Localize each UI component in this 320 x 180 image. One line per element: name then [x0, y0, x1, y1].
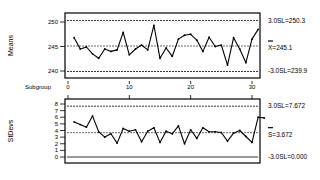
data-point	[147, 130, 149, 132]
data-point	[208, 36, 210, 38]
data-point	[245, 62, 247, 64]
data-point	[214, 131, 216, 133]
data-point	[196, 138, 198, 140]
y-tick-label: 6	[55, 114, 59, 120]
data-point	[122, 31, 124, 33]
data-point	[104, 136, 106, 138]
data-point	[79, 124, 81, 126]
x-axis-label: Subgroup	[25, 84, 52, 90]
ucl-label: 3.0SL=250.3	[268, 17, 305, 24]
data-point	[104, 48, 106, 50]
data-point	[239, 48, 241, 50]
data-point	[196, 39, 198, 41]
data-point	[86, 46, 88, 48]
data-point	[147, 49, 149, 51]
data-point	[220, 44, 222, 46]
data-point	[135, 48, 137, 50]
data-point	[184, 143, 186, 145]
means-panel: Means2402452503.0SL=250.3X=245.1-3.0SL=2…	[7, 13, 308, 78]
data-point	[202, 51, 204, 53]
means-series-line	[74, 25, 258, 65]
stdevs-series-line	[74, 116, 264, 144]
data-point	[110, 51, 112, 53]
data-point	[73, 37, 75, 39]
stdevs-plot-frame	[65, 99, 260, 163]
data-point	[110, 133, 112, 135]
y-tick-label: 245	[48, 44, 59, 50]
x-tick-label: 10	[126, 84, 133, 90]
data-point	[184, 34, 186, 36]
data-point	[178, 125, 180, 127]
y-tick-label: 7	[55, 108, 59, 114]
data-point	[141, 141, 143, 143]
means-y-axis-label: Means	[7, 34, 14, 56]
data-point	[153, 127, 155, 129]
data-point	[141, 44, 143, 46]
lcl-label: -3.0SL=0.000	[268, 153, 308, 160]
data-point	[178, 38, 180, 40]
data-point	[135, 129, 137, 131]
y-tick-label: 5	[55, 121, 59, 127]
x-tick-label: 20	[187, 84, 194, 90]
data-point	[116, 142, 118, 144]
data-point	[92, 115, 94, 117]
data-point	[165, 130, 167, 132]
data-point	[257, 116, 259, 118]
data-point	[208, 131, 210, 133]
data-point	[233, 132, 235, 134]
data-point	[202, 127, 204, 129]
data-point	[171, 55, 173, 57]
x-tick-label: 30	[249, 84, 256, 90]
data-point	[128, 54, 130, 56]
data-point	[227, 64, 229, 66]
data-point	[128, 130, 130, 132]
data-point	[257, 28, 259, 30]
lcl-label: -3.0SL=239.9	[268, 67, 308, 74]
y-tick-label: 240	[48, 68, 59, 74]
y-tick-label: 250	[48, 19, 59, 25]
data-point	[251, 142, 253, 144]
data-point	[92, 53, 94, 55]
control-chart: Means2402452503.0SL=250.3X=245.1-3.0SL=2…	[0, 0, 320, 180]
data-point	[251, 38, 253, 40]
data-point	[98, 131, 100, 133]
data-point	[165, 47, 167, 49]
data-point	[86, 126, 88, 128]
data-point	[227, 140, 229, 142]
y-tick-label: 2	[55, 141, 59, 147]
data-point	[98, 57, 100, 59]
stdevs-y-axis-label: StDevs	[7, 119, 14, 142]
data-point	[190, 129, 192, 131]
y-tick-label: 4	[55, 128, 59, 134]
ucl-label: 3.0SL=7.672	[268, 102, 305, 109]
data-point	[220, 132, 222, 134]
center-label: X=245.1	[268, 44, 293, 51]
data-point	[245, 136, 247, 138]
y-tick-label: 0	[55, 154, 59, 160]
data-point	[116, 49, 118, 51]
y-tick-label: 1	[55, 147, 59, 153]
y-tick-label: 3	[55, 134, 59, 140]
data-point	[73, 121, 75, 123]
data-point	[79, 48, 81, 50]
data-point	[171, 133, 173, 135]
data-point	[153, 25, 155, 27]
data-point	[190, 33, 192, 35]
data-point	[159, 142, 161, 144]
x-tick-label: 0	[66, 84, 70, 90]
data-point	[159, 57, 161, 59]
center-label: S=3.672	[268, 131, 293, 138]
stdevs-panel: StDevs0123456783.0SL=7.672S=3.672-3.0SL=…	[7, 99, 308, 163]
data-point	[263, 117, 265, 119]
data-point	[214, 46, 216, 48]
means-plot-frame	[65, 13, 260, 78]
data-point	[239, 130, 241, 132]
data-point	[233, 37, 235, 39]
y-tick-label: 8	[55, 101, 59, 107]
data-point	[122, 128, 124, 130]
